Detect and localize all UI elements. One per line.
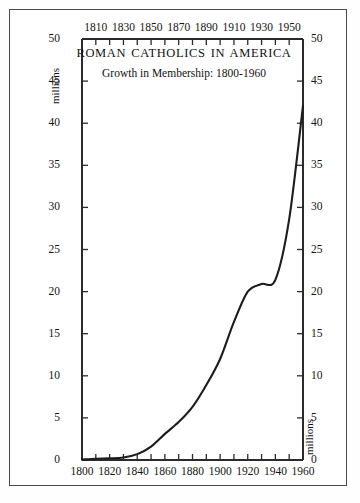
y-tick-label-left-15: 15 [34, 328, 60, 340]
x-tick-label-top-1950: 1950 [269, 22, 309, 34]
y-tick-label-left-30: 30 [34, 201, 60, 213]
y-tick-label-right-45: 45 [311, 75, 337, 87]
y-tick-label-left-35: 35 [34, 159, 60, 171]
y-tick-label-right-35: 35 [311, 159, 337, 171]
y-tick-label-right-50: 50 [311, 33, 337, 45]
y-tick-label-right-0: 0 [311, 454, 337, 466]
y-tick-label-right-25: 25 [311, 244, 337, 256]
y-tick-label-left-10: 10 [34, 370, 60, 382]
y-tick-label-left-25: 25 [34, 244, 60, 256]
y-tick-label-left-40: 40 [34, 117, 60, 129]
y-axis-label-right: millions [303, 419, 315, 455]
y-tick-label-right-40: 40 [311, 117, 337, 129]
x-tick-label-bottom-1960: 1960 [283, 466, 323, 478]
y-tick-label-right-10: 10 [311, 370, 337, 382]
y-tick-label-right-15: 15 [311, 328, 337, 340]
y-tick-label-left-0: 0 [34, 454, 60, 466]
y-tick-label-right-20: 20 [311, 286, 337, 298]
y-tick-label-right-5: 5 [311, 412, 337, 424]
y-tick-label-left-45: 45 [34, 75, 60, 87]
y-tick-label-left-50: 50 [34, 33, 60, 45]
page-title: ROMAN CATHOLICS IN AMERICA [66, 46, 302, 61]
y-tick-label-left-5: 5 [34, 412, 60, 424]
y-tick-label-right-30: 30 [311, 201, 337, 213]
y-tick-label-left-20: 20 [34, 286, 60, 298]
chart-subtitle: Growth in Membership: 1800-1960 [66, 67, 302, 79]
figure: ROMAN CATHOLICS IN AMERICA Growth in Mem… [0, 0, 360, 503]
chart-title-block: ROMAN CATHOLICS IN AMERICA Growth in Mem… [66, 46, 302, 79]
